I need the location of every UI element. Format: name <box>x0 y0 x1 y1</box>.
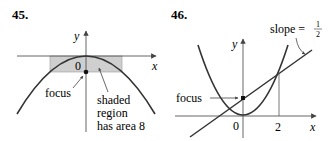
y-axis-label: y <box>73 29 80 43</box>
origin-label: 0 <box>233 119 239 133</box>
annotation-line-2: region <box>97 106 128 120</box>
tick-label-2: 2 <box>275 120 281 134</box>
annotation-line-3: has area 8 <box>97 119 145 133</box>
focus-point <box>84 70 89 75</box>
figure-45: 45. y x 0 focus shaded region has area 8 <box>12 7 158 133</box>
origin-label: 0 <box>75 59 81 73</box>
slope-label: slope = <box>270 22 305 36</box>
focus-point <box>241 96 245 100</box>
annotation-line-1: shaded <box>97 93 130 107</box>
focus-label: focus <box>176 91 202 105</box>
x-axis-label: x <box>309 120 316 134</box>
x-axis-label: x <box>151 59 158 73</box>
tangent-line <box>190 50 312 137</box>
focus-pointer <box>73 76 83 88</box>
slope-denominator: 2 <box>316 30 320 39</box>
focus-label: focus <box>45 86 71 100</box>
slope-numerator: 1 <box>316 20 320 29</box>
slope-pointer <box>296 38 305 54</box>
y-axis-label: y <box>231 37 238 51</box>
figure-number: 45. <box>12 7 28 22</box>
figure-46: 46. y x 0 2 focus slope = 1 2 <box>171 7 322 138</box>
figure-number: 46. <box>171 7 187 22</box>
figure-canvas: 45. y x 0 focus shaded region has area 8… <box>0 0 328 141</box>
